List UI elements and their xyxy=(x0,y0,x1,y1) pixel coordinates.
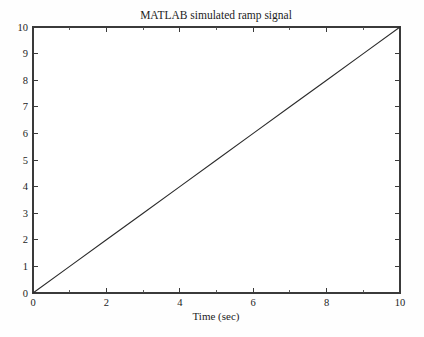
x-tick-label: 10 xyxy=(395,297,406,308)
y-tick-label: 9 xyxy=(23,48,28,59)
ramp-signal-chart: MATLAB simulated ramp signal 0246810 012… xyxy=(0,0,424,337)
figure-canvas: MATLAB simulated ramp signal 0246810 012… xyxy=(0,0,424,337)
y-tick-label: 7 xyxy=(23,101,28,112)
x-tick-label: 6 xyxy=(251,297,256,308)
x-tick-label: 4 xyxy=(177,297,183,308)
y-tick-label: 8 xyxy=(23,75,28,86)
x-tick-label: 0 xyxy=(30,297,35,308)
x-tick-label: 8 xyxy=(324,297,329,308)
y-tick-label: 2 xyxy=(23,234,28,245)
y-tick-label: 3 xyxy=(23,208,28,219)
y-tick-label: 4 xyxy=(23,181,29,192)
chart-title: MATLAB simulated ramp signal xyxy=(140,9,292,22)
x-tick-label: 2 xyxy=(104,297,109,308)
y-tick-label: 0 xyxy=(23,288,28,299)
x-axis-title: Time (sec) xyxy=(193,310,240,323)
y-tick-label: 6 xyxy=(23,128,28,139)
y-tick-label: 10 xyxy=(18,22,29,33)
y-tick-label: 1 xyxy=(23,261,28,272)
y-tick-label: 5 xyxy=(23,155,28,166)
